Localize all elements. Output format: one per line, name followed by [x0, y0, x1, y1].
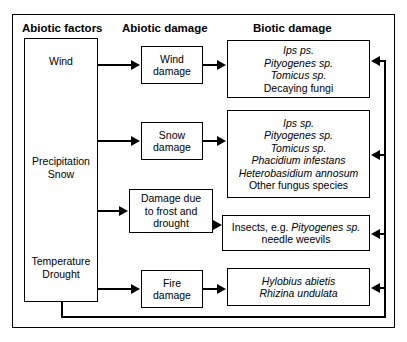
feedback-branch-biotic-4	[380, 287, 386, 289]
column-header-abiotic-damage: Abiotic damage	[122, 22, 208, 35]
biotic-2-species-6: Other fungus species	[249, 179, 348, 192]
biotic-damage-box-wind: Ips ps. Pityogenes sp. Tomicus sp. Decay…	[227, 40, 370, 98]
biotic-damage-box-fire: Hylobius abietis Rhizina undulata	[227, 268, 370, 306]
factor-wind-line-1: Wind	[49, 55, 73, 67]
biotic-4-species-1: Hylobius abietis	[262, 275, 336, 288]
wind-damage-line-2: damage	[153, 65, 191, 78]
connector-temp-to-fire-damage	[98, 288, 132, 290]
factor-wind: Wind	[25, 55, 97, 68]
abiotic-damage-box-fire: Fire damage	[141, 270, 203, 308]
connector-wind-damage-to-biotic	[203, 64, 218, 66]
connector-precip-to-frost-damage	[98, 210, 120, 212]
arrowhead-biotic-3	[213, 220, 222, 230]
biotic-damage-box-snow: Ips sp. Pityogenes sp. Tomicus sp. Phaci…	[227, 110, 370, 198]
snow-damage-line-1: Snow	[159, 129, 185, 142]
feedback-arrowhead-biotic-3	[371, 229, 380, 239]
arrowhead-fire-damage	[131, 284, 140, 294]
connector-precip-to-snow-damage	[98, 140, 132, 142]
biotic-damage-box-frost: Insects, e.g. Pityogenes sp. needle weev…	[222, 215, 370, 251]
arrowhead-wind-damage	[131, 60, 140, 70]
biotic-2-species-5: Heterobasidium annosum	[239, 167, 359, 180]
fire-damage-line-2: damage	[153, 289, 191, 302]
abiotic-factors-box: Wind Precipitation Snow Temperature Drou…	[24, 38, 98, 302]
feedback-branch-biotic-3	[380, 233, 386, 235]
biotic-3-line-2: needle weevils	[262, 233, 331, 246]
arrowhead-snow-damage	[131, 136, 140, 146]
biotic-3-species: Pityogenes sp.	[291, 221, 360, 233]
fire-damage-line-1: Fire	[163, 277, 181, 290]
factor-temperature-line-1: Temperature	[25, 255, 97, 268]
biotic-1-species-1: Ips ps.	[283, 44, 314, 57]
biotic-2-species-4: Phacidium infestans	[252, 154, 346, 167]
factor-temperature-drought: Temperature Drought	[25, 255, 97, 281]
feedback-arrowhead-biotic-1	[371, 56, 380, 66]
biotic-1-species-2: Pityogenes sp.	[264, 57, 333, 70]
column-header-biotic-damage: Biotic damage	[253, 22, 332, 35]
biotic-2-species-1: Ips sp.	[283, 117, 314, 130]
connector-fire-damage-to-biotic	[203, 288, 218, 290]
feedback-arrowhead-biotic-4	[371, 283, 380, 293]
abiotic-damage-box-snow: Snow damage	[141, 122, 203, 160]
factor-precipitation-snow: Precipitation Snow	[25, 155, 97, 181]
abiotic-damage-box-wind: Wind damage	[141, 46, 203, 84]
column-header-abiotic-factors: Abiotic factors	[22, 22, 103, 35]
connector-wind-to-wind-damage	[98, 64, 132, 66]
connector-snow-damage-to-biotic	[203, 140, 218, 142]
arrowhead-biotic-1	[217, 60, 226, 70]
snow-damage-line-2: damage	[153, 141, 191, 154]
feedback-branch-biotic-2	[380, 154, 386, 156]
biotic-4-species-2: Rhizina undulata	[259, 287, 337, 300]
flow-diagram: Abiotic factors Abiotic damage Biotic da…	[0, 0, 407, 342]
arrowhead-frost-damage	[119, 206, 128, 216]
arrowhead-biotic-4	[217, 284, 226, 294]
biotic-3-line-1: Insects, e.g. Pityogenes sp.	[232, 221, 360, 234]
factor-precipitation-line-1: Precipitation	[25, 155, 97, 168]
frost-damage-line-3: drought	[153, 217, 189, 230]
arrowhead-biotic-2	[217, 136, 226, 146]
biotic-2-species-3: Tomicus sp.	[271, 142, 327, 155]
factor-precipitation-line-2: Snow	[25, 168, 97, 181]
frost-damage-line-1: Damage due	[141, 192, 201, 205]
wind-damage-line-1: Wind	[160, 53, 184, 66]
feedback-arrowhead-biotic-2	[371, 150, 380, 160]
feedback-line-left-drop	[61, 302, 63, 317]
abiotic-damage-box-frost-drought: Damage due to frost and drought	[129, 189, 213, 233]
biotic-1-species-3: Tomicus sp.	[271, 69, 327, 82]
biotic-3-prefix: Insects, e.g.	[232, 221, 292, 233]
biotic-1-species-4: Decaying fungi	[264, 82, 333, 95]
factor-temperature-line-2: Drought	[25, 268, 97, 281]
feedback-line-bottom	[61, 316, 386, 318]
frost-damage-line-2: to frost and	[145, 205, 198, 218]
feedback-line-right-riser	[384, 60, 386, 317]
feedback-branch-biotic-1	[380, 60, 386, 62]
biotic-2-species-2: Pityogenes sp.	[264, 129, 333, 142]
